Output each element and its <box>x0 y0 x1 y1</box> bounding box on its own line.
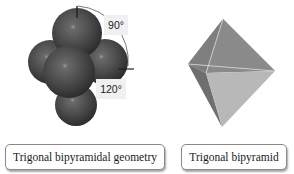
equatorial-atom-front <box>43 46 95 98</box>
angle-label-120: 120° <box>96 79 126 99</box>
caption-trigonal-bipyramid: Trigonal bipyramid <box>181 144 287 170</box>
polyhedron-trigonal-bipyramid <box>188 19 275 127</box>
angle-label-90: 90° <box>104 15 128 35</box>
face-right-lower <box>206 71 275 127</box>
face-right-upper <box>206 19 275 73</box>
caption-trigonal-bipyramidal-geometry: Trigonal bipyramidal geometry <box>5 144 165 170</box>
